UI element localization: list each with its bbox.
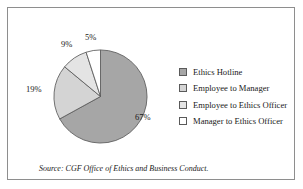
slice-label-manager-to-ethics-officer: 5% bbox=[85, 32, 96, 42]
source-note: Source: CGF Office of Ethics and Busines… bbox=[39, 164, 208, 173]
legend-item-label: Employee to Manager bbox=[193, 83, 269, 93]
legend-swatch-icon bbox=[179, 68, 187, 76]
legend-swatch-icon bbox=[179, 117, 187, 125]
legend-item-employee-to-ethics-officer: Employee to Ethics Officer bbox=[179, 98, 299, 111]
slice-label-employee-to-manager: 19% bbox=[26, 84, 42, 94]
pie-svg bbox=[53, 49, 148, 144]
legend-item-label: Ethics Hotline bbox=[193, 67, 242, 77]
slice-label-ethics-hotline: 67% bbox=[135, 112, 151, 122]
legend-item-manager-to-ethics-officer: Manager to Ethics Officer bbox=[179, 115, 299, 128]
legend-item-label: Employee to Ethics Officer bbox=[193, 100, 287, 110]
slice-label-employee-to-ethics-officer: 9% bbox=[61, 39, 72, 49]
pie-slice-group bbox=[54, 50, 147, 143]
legend-item-ethics-hotline: Ethics Hotline bbox=[179, 65, 299, 78]
legend-item-label: Manager to Ethics Officer bbox=[193, 116, 283, 126]
legend-swatch-icon bbox=[179, 84, 187, 92]
legend-swatch-icon bbox=[179, 101, 187, 109]
chart-legend: Ethics Hotline Employee to Manager Emplo… bbox=[179, 65, 299, 131]
pie-chart bbox=[53, 49, 148, 144]
figure-border: 67% 19% 9% 5% Ethics Hotline Employee to… bbox=[7, 7, 295, 180]
legend-item-employee-to-manager: Employee to Manager bbox=[179, 82, 299, 95]
pie-chart-figure: 67% 19% 9% 5% Ethics Hotline Employee to… bbox=[0, 0, 303, 189]
